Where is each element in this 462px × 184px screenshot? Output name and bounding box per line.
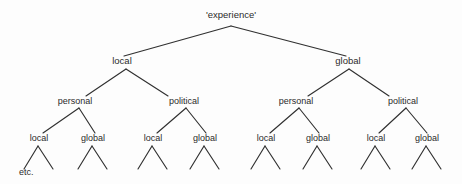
node-l3-local-4: local [367, 133, 386, 143]
etc-continuation-label: etc. [19, 167, 34, 177]
edge-personal2-to-global [299, 108, 319, 133]
edge-local-to-personal [86, 69, 126, 96]
stub-local-4-right [375, 146, 390, 169]
stub-local-2-right [152, 146, 167, 169]
stub-global-4-right [426, 146, 441, 169]
stub-global-3-right [317, 146, 332, 169]
stub-global-1-left [78, 146, 92, 169]
node-l3-global-1: global [81, 133, 105, 143]
node-l2-political-right: political [388, 96, 418, 106]
node-l3-local-1: local [30, 133, 49, 143]
edge-political1-to-local [157, 108, 186, 133]
edge-global-to-political [349, 69, 389, 96]
node-l3-local-3: local [257, 133, 276, 143]
node-l2-personal-right: personal [279, 96, 314, 106]
stub-global-2-right [204, 146, 219, 169]
node-l3-global-2: global [193, 133, 217, 143]
node-l1-global: global [335, 55, 360, 66]
stub-global-3-left [303, 146, 317, 169]
node-l1-local: local [112, 55, 132, 66]
tree-diagram: 'experience' local global personal polit… [0, 0, 462, 184]
stub-local-2-left [138, 146, 152, 169]
stub-local-4-left [361, 146, 375, 169]
stub-local-1-right [38, 146, 53, 169]
edge-global-to-personal [308, 69, 349, 96]
stub-global-1-right [92, 146, 107, 169]
edge-root-to-local [124, 26, 231, 56]
stub-local-1-left [24, 146, 38, 169]
tree-diagram-canvas: 'experience' local global personal polit… [0, 0, 462, 184]
node-l3-global-4: global [415, 133, 439, 143]
edge-local-to-political [126, 69, 168, 96]
edge-personal1-to-global [79, 108, 95, 133]
edges-global-to-level2 [308, 69, 389, 96]
edges-level2-to-level3 [43, 108, 427, 133]
node-l2-personal-left: personal [58, 96, 93, 106]
stub-global-2-left [190, 146, 204, 169]
stub-local-3-right [265, 146, 280, 169]
edge-personal2-to-local [270, 108, 299, 133]
edge-root-to-global [231, 26, 346, 56]
node-l3-local-2: local [144, 133, 163, 143]
edges-root-to-level1 [124, 26, 346, 56]
node-l2-political-left: political [169, 96, 199, 106]
edge-personal1-to-local [43, 108, 79, 133]
terminal-stubs [24, 146, 441, 169]
edge-political2-to-local [379, 108, 406, 133]
edge-political2-to-global [406, 108, 427, 133]
edges-local-to-level2 [86, 69, 168, 96]
node-l3-global-3: global [306, 133, 330, 143]
stub-local-3-left [251, 146, 265, 169]
stub-global-4-left [412, 146, 426, 169]
edge-political1-to-global [186, 108, 206, 133]
node-root-experience: 'experience' [206, 9, 256, 20]
